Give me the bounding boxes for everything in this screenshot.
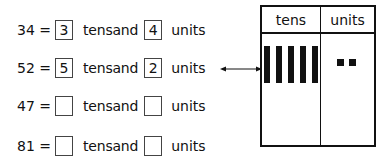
units-answer-box[interactable]: 4 xyxy=(144,20,162,40)
exercise-row-52: 52 = 5 tensand 2 units xyxy=(17,57,206,79)
tens-bar xyxy=(276,46,282,83)
table-header: tens units xyxy=(262,7,374,34)
column-divider xyxy=(320,7,321,145)
units-header: units xyxy=(321,7,374,32)
tens-header: tens xyxy=(262,7,320,32)
tens-answer-box[interactable] xyxy=(55,96,73,116)
tens-bar xyxy=(312,46,318,83)
place-value-table: tens units xyxy=(260,5,376,147)
number-label: 34 = xyxy=(17,22,55,38)
number-label: 81 = xyxy=(17,138,55,154)
tens-bar xyxy=(288,46,294,83)
units-label: units xyxy=(171,22,205,38)
tens-answer-box[interactable]: 5 xyxy=(55,58,73,78)
double-arrow-icon xyxy=(220,64,262,74)
exercise-row-34: 34 = 3 tensand 4 units xyxy=(17,19,206,41)
units-answer-box[interactable] xyxy=(144,96,162,116)
tens-label: tensand xyxy=(83,98,138,114)
units-answer-box[interactable]: 2 xyxy=(144,58,162,78)
unit-cube xyxy=(337,59,344,66)
number-label: 52 = xyxy=(17,60,55,76)
tens-label: tensand xyxy=(83,60,138,76)
exercise-row-47: 47 = tensand units xyxy=(17,95,206,117)
unit-cube xyxy=(349,59,356,66)
units-label: units xyxy=(171,60,205,76)
tens-label: tensand xyxy=(83,22,138,38)
units-label: units xyxy=(171,138,205,154)
exercise-row-81: 81 = tensand units xyxy=(17,135,206,157)
tens-bar xyxy=(300,46,306,83)
number-label: 47 = xyxy=(17,98,55,114)
units-answer-box[interactable] xyxy=(144,136,162,156)
tens-bar xyxy=(264,46,270,83)
tens-answer-box[interactable] xyxy=(55,136,73,156)
units-label: units xyxy=(171,98,205,114)
tens-label: tensand xyxy=(83,138,138,154)
tens-answer-box[interactable]: 3 xyxy=(55,20,73,40)
